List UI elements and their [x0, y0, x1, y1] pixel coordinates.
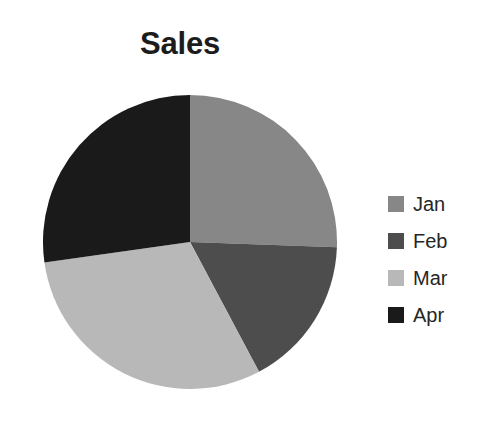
legend-item-mar[interactable]: Mar [388, 259, 473, 296]
legend-item-apr[interactable]: Apr [388, 296, 473, 333]
pie-slice-group [43, 95, 337, 389]
legend-swatch-mar [388, 270, 404, 286]
pie-slice-apr [43, 95, 190, 262]
legend-swatch-feb [388, 233, 404, 249]
legend-swatch-jan [388, 196, 404, 212]
legend-swatch-apr [388, 307, 404, 323]
pie-svg [43, 95, 337, 389]
pie-chart-figure: Sales JanFebMarApr [0, 0, 477, 434]
legend-label: Mar [413, 268, 447, 288]
legend-label: Apr [413, 305, 444, 325]
chart-legend: JanFebMarApr [388, 185, 473, 333]
legend-item-feb[interactable]: Feb [388, 222, 473, 259]
pie-slice-jan [190, 95, 337, 247]
legend-label: Feb [413, 231, 447, 251]
chart-title: Sales [0, 28, 360, 59]
legend-label: Jan [413, 194, 445, 214]
legend-item-jan[interactable]: Jan [388, 185, 473, 222]
pie-plot-area [43, 95, 337, 389]
